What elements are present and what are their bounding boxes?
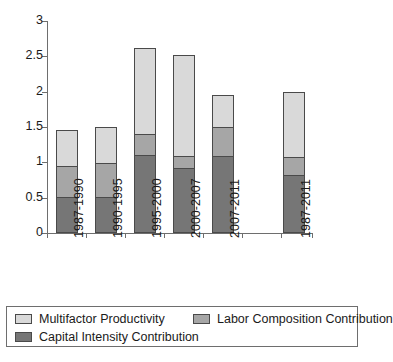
- y-tick-label-2: 2: [36, 84, 43, 99]
- x-axis-label-text: 1987-1990: [71, 178, 87, 238]
- x-tick-6: [281, 233, 282, 238]
- legend-swatch-icon: [15, 332, 32, 342]
- bar-segment-multifactor-productivity: [135, 49, 155, 134]
- x-axis-label-1987-1990: 1987-1990: [57, 238, 73, 308]
- x-axis-label-1987-2011: 1987-2011: [284, 238, 300, 308]
- x-axis-label-text: 1995-2000: [149, 178, 165, 238]
- legend-row-2: Capital Intensity Contribution: [7, 327, 357, 346]
- legend-label: Capital Intensity Contribution: [39, 330, 199, 344]
- x-axis-label-1990-1995: 1990-1995: [96, 238, 112, 308]
- bar-segment-multifactor-productivity: [57, 131, 77, 166]
- legend-row-1: Multifactor Productivity Labor Compositi…: [7, 309, 357, 328]
- legend: Multifactor Productivity Labor Compositi…: [6, 306, 358, 347]
- legend-item-capital-intensity-contribution[interactable]: Capital Intensity Contribution: [15, 327, 199, 346]
- x-axis-label-text: 1990-1995: [110, 178, 126, 238]
- legend-label: Multifactor Productivity: [39, 312, 165, 326]
- x-tick-0: [47, 233, 48, 238]
- bar-segment-labor-composition: [213, 127, 233, 156]
- bar-segment-labor-composition: [135, 134, 155, 155]
- x-axis-label-2000-2007: 2000-2007: [174, 238, 190, 308]
- y-tick-label-0: 0: [36, 225, 43, 240]
- legend-swatch-icon: [193, 314, 210, 324]
- bar-segment-labor-composition: [174, 156, 194, 168]
- y-tick-label-3: 3: [36, 13, 43, 28]
- y-tick-3: 3: [47, 21, 48, 22]
- legend-label: Labor Composition Contribution: [217, 312, 393, 326]
- x-axis-label-text: 1987-2011: [298, 179, 314, 238]
- bar-segment-multifactor-productivity: [174, 56, 194, 156]
- x-axis-label-text: 2000-2007: [188, 178, 204, 238]
- legend-item-multifactor-productivity[interactable]: Multifactor Productivity: [15, 309, 165, 328]
- y-tick-2: 2: [47, 92, 48, 93]
- y-tick-label-2_5: 2.5: [26, 48, 43, 63]
- y-tick-2_5: 2.5: [47, 56, 48, 57]
- x-axis-label-text: 2007-2011: [227, 179, 243, 238]
- bar-segment-labor-composition: [284, 157, 304, 175]
- y-tick-label-1: 1: [36, 154, 43, 169]
- legend-swatch-icon: [15, 314, 32, 324]
- y-tick-label-0_5: 0.5: [26, 190, 43, 205]
- y-tick-0_5: 0.5: [47, 198, 48, 199]
- legend-item-labor-composition-contribution[interactable]: Labor Composition Contribution: [193, 309, 393, 328]
- bar-segment-multifactor-productivity: [213, 96, 233, 127]
- bar-segment-multifactor-productivity: [96, 128, 116, 163]
- y-tick-label-1_5: 1.5: [26, 119, 43, 134]
- x-axis-label-1995-2000: 1995-2000: [135, 238, 151, 308]
- y-tick-1_5: 1.5: [47, 127, 48, 128]
- bar-segment-multifactor-productivity: [284, 93, 304, 157]
- y-tick-1: 1: [47, 162, 48, 163]
- x-axis-label-2007-2011: 2007-2011: [213, 238, 229, 308]
